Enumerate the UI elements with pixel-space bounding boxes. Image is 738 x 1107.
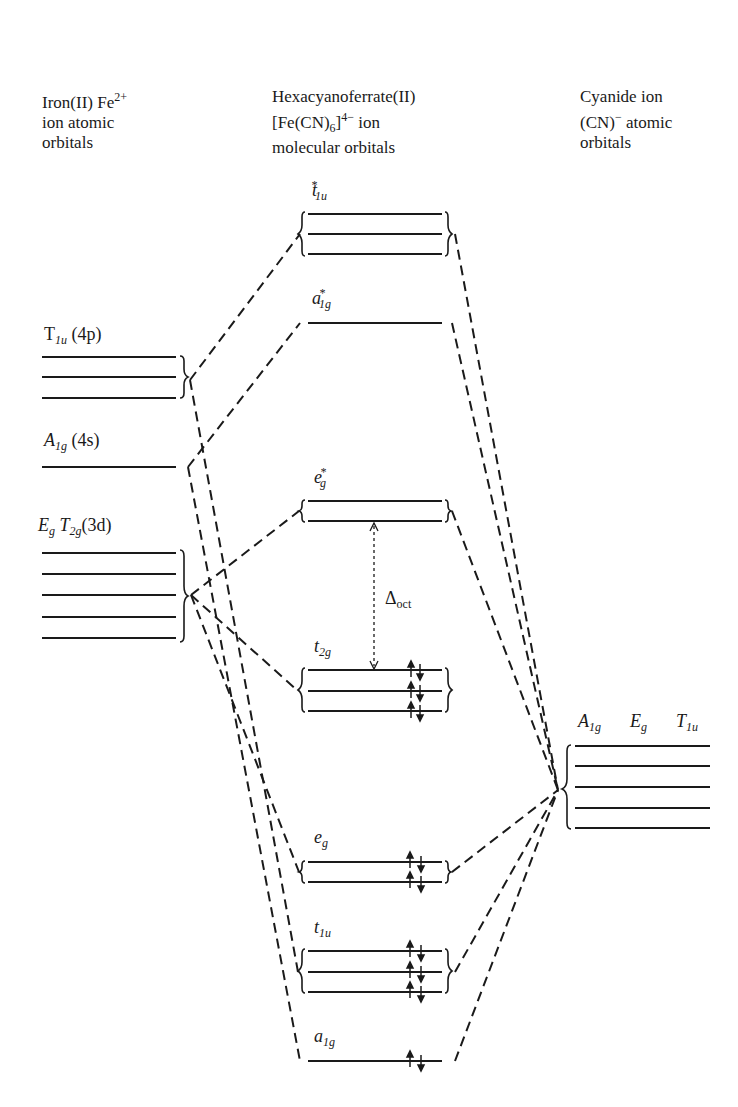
brace-mo-t2g-right	[445, 668, 452, 712]
brace-fe-3d	[180, 550, 188, 642]
line-cn-to-mo-a1g-star	[452, 323, 558, 790]
line-fe-t1u-to-mo-t1u-star	[190, 234, 300, 380]
mo-eg-levels	[308, 862, 442, 882]
brace-mo-t1u-star-right	[445, 212, 452, 256]
brace-mo-eg-left	[299, 861, 305, 883]
brace-fe-t1u	[180, 356, 188, 398]
mo-t1u-star-levels	[308, 214, 442, 254]
line-cn-to-mo-t1u	[455, 790, 558, 972]
cn-levels	[575, 746, 710, 828]
brace-mo-eg-star-right	[445, 500, 451, 522]
correlation-lines	[188, 234, 558, 1061]
brace-mo-eg-right	[445, 861, 451, 883]
line-fe-3d-to-mo-t2g	[191, 595, 298, 691]
fe-t1u-levels	[42, 357, 176, 398]
brace-mo-t2g-left	[298, 668, 305, 712]
fe-3d-levels	[42, 553, 176, 638]
line-fe-a1g-to-mo-a1g	[188, 467, 300, 1061]
line-cn-to-mo-eg-star	[452, 511, 558, 790]
mo-diagram-canvas	[0, 0, 738, 1107]
brace-mo-t1u-right	[445, 949, 452, 993]
braces	[180, 212, 571, 993]
brace-mo-eg-star-left	[299, 500, 305, 522]
line-fe-3d-to-mo-eg-star	[191, 511, 299, 595]
line-fe-a1g-to-mo-a1g-star	[188, 323, 300, 467]
line-fe-3d-to-mo-eg	[191, 595, 299, 872]
line-cn-to-mo-t1u-star	[455, 234, 558, 790]
brace-mo-t1u-left	[298, 949, 305, 993]
electrons-eg	[407, 852, 424, 892]
electrons	[407, 661, 424, 1071]
delta-oct-arrow	[370, 523, 378, 669]
mo-eg-star-levels	[308, 501, 442, 521]
brace-cn	[562, 745, 571, 829]
